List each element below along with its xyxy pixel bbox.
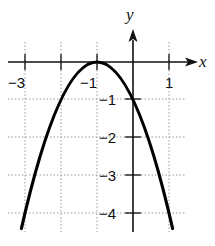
x-tick-label-1: 1 bbox=[165, 74, 173, 91]
x-axis-label: x bbox=[198, 52, 207, 71]
x-tick-label-m3: −3 bbox=[8, 74, 25, 91]
x-tick-label-m1: −1 bbox=[80, 74, 97, 91]
y-tick-label-m3: −3 bbox=[99, 167, 116, 184]
y-axis bbox=[125, 29, 141, 232]
grid bbox=[8, 42, 186, 232]
y-tick-label-m4: −4 bbox=[99, 205, 116, 222]
y-axis-label: y bbox=[124, 5, 134, 24]
y-tick-label-m1: −1 bbox=[99, 91, 116, 108]
parabola-chart: x y −3 −1 1 −1 −2 −3 −4 bbox=[0, 0, 215, 246]
y-tick-label-m2: −2 bbox=[99, 129, 116, 146]
